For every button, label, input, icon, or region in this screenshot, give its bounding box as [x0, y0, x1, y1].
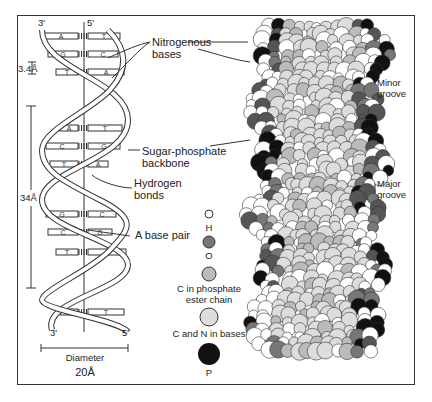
callout-backbone-1: Sugar-phosphate	[142, 145, 226, 157]
svg-text:A: A	[96, 161, 101, 168]
strand-end-5prime-top: 5'	[87, 17, 94, 28]
rise-label: 3.4Å	[18, 63, 38, 74]
ladder-helix-model: ATGCTAATCGTAGCCGTAAT	[0, 0, 432, 402]
major-groove-label-2: groove	[377, 189, 406, 200]
minor-groove-label-2: groove	[377, 88, 406, 99]
callout-base-pair: A base pair	[135, 229, 190, 241]
strand-end-3prime-bottom: 3'	[50, 327, 57, 338]
callout-hydrogen-bonds-1: Hydrogen	[134, 177, 182, 189]
pitch-label: 34Å	[20, 192, 37, 203]
svg-text:A: A	[59, 33, 64, 40]
legend-c-phosphate-label-1: C in phosphate	[169, 283, 249, 294]
callout-hydrogen-bonds-2: bonds	[134, 189, 164, 201]
svg-text:C: C	[60, 229, 65, 236]
legend-p-label: P	[199, 367, 219, 378]
strand-end-5prime-bottom: 5'	[122, 327, 129, 338]
legend-o-label: O	[199, 250, 219, 261]
svg-text:T: T	[65, 69, 70, 76]
legend-c-n-bases-label: C and N in bases	[164, 328, 254, 339]
diameter-label: Diameter	[60, 352, 110, 363]
diameter-value: 20Å	[60, 366, 110, 378]
svg-text:G: G	[97, 229, 102, 236]
svg-text:C: C	[99, 211, 104, 218]
minor-groove-label-1: Minor	[377, 77, 401, 88]
svg-text:T: T	[102, 33, 107, 40]
svg-text:T: T	[65, 249, 70, 256]
svg-text:T: T	[62, 161, 67, 168]
callout-nitrogenous-bases-2: bases	[152, 48, 181, 60]
svg-text:T: T	[104, 309, 109, 316]
svg-text:C: C	[100, 51, 105, 58]
major-groove-label-1: Major	[377, 178, 401, 189]
callout-backbone-2: backbone	[142, 157, 190, 169]
legend-c-phosphate-label-2: ester chain	[169, 294, 249, 305]
svg-text:A: A	[67, 125, 72, 132]
callout-nitrogenous-bases-1: Nitrogenous	[152, 36, 211, 48]
svg-text:T: T	[103, 125, 108, 132]
svg-text:G: G	[59, 211, 64, 218]
legend-h-label: H	[199, 222, 219, 233]
svg-text:C: C	[59, 143, 64, 150]
strand-end-3prime-top: 3'	[38, 17, 45, 28]
svg-text:A: A	[104, 69, 109, 76]
